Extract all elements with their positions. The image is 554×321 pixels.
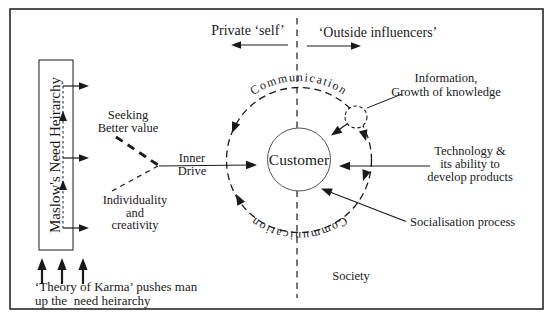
outside-influencers-arrow-icon — [307, 42, 361, 50]
maslow-out-arrow-icon — [63, 154, 89, 162]
private-self-label: Private ‘self’ — [188, 23, 308, 39]
communication-arrowhead-icon — [228, 121, 240, 134]
communication-arrowhead-icon — [359, 169, 371, 182]
individuality-dashed-line — [112, 166, 158, 191]
society-label: Society — [321, 269, 381, 284]
technology-label: Technology & its ability to develop prod… — [405, 145, 535, 184]
seeking-dashed-line — [116, 137, 158, 165]
inner-drive-label: Inner Drive — [162, 152, 222, 178]
knowledge-to-customer-arrow-icon — [329, 124, 347, 139]
communication-arrowhead-icon — [232, 192, 245, 206]
seeking-better-value-label: Seeking Better value — [83, 109, 173, 134]
socialisation-label: Socialisation process — [410, 215, 540, 230]
customer-label: Customer — [259, 151, 339, 169]
maslow-need-hierarchy-label: Maslow's Need Heirarchy — [47, 62, 65, 248]
private-self-arrow-icon — [231, 41, 288, 49]
socialisation-arrow-icon — [319, 185, 406, 222]
theory-of-karma-label: ‘Theory of Karma’ pushes man up the need… — [35, 280, 235, 307]
information-label: Information, Growth of knowledge — [376, 72, 516, 99]
diagram-page: Communication Communication Private ‘sel… — [0, 0, 554, 321]
communication-label-bottom: Communication — [248, 214, 351, 243]
knowledge-node-circle — [345, 106, 367, 128]
outside-influencers-label: ‘Outside influencers’ — [298, 25, 458, 41]
maslow-out-arrow-icon — [63, 82, 89, 90]
communication-label-top: Communication — [248, 70, 351, 98]
individuality-label: Individuality and creativity — [85, 194, 185, 232]
communication-arrowhead-icon — [359, 129, 370, 142]
